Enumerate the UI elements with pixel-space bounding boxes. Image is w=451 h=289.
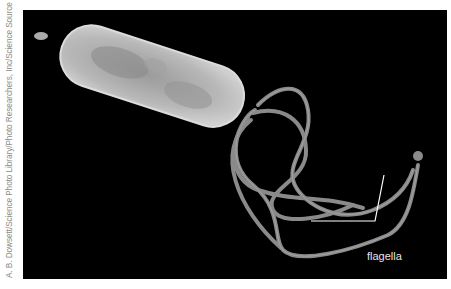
photo-credit: A. B. Dowsett/Science Photo Library/Phot… [2, 8, 16, 278]
bacterium-illustration [23, 10, 447, 279]
flagella-label: flagella [367, 250, 402, 262]
cell-body [52, 17, 252, 135]
flagella [232, 89, 418, 256]
micrograph-image [23, 10, 447, 279]
